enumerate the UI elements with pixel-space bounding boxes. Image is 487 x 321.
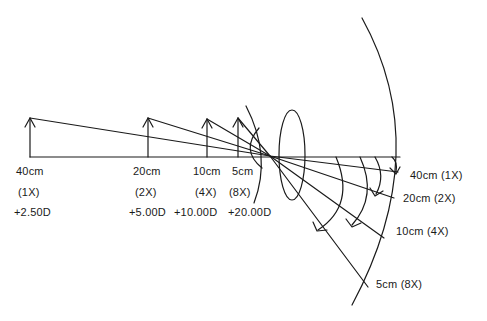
chief-rays — [30, 118, 398, 287]
object-magnification-20cm: (2X) — [135, 186, 157, 198]
retina-arc — [352, 18, 396, 305]
object-power-20cm: +5.00D — [129, 206, 166, 218]
object-distance-10cm: 10cm — [193, 165, 221, 177]
retina-label-20cm: 20cm (2X) — [403, 192, 456, 204]
object-power-10cm: +10.00D — [174, 206, 217, 218]
object-distance-40cm: 40cm — [16, 165, 44, 177]
object-magnification-10cm: (4X) — [195, 186, 217, 198]
angle-arc-20cm — [370, 157, 383, 196]
angle-arc-10cm — [346, 157, 367, 227]
object-power-5cm: +20.00D — [228, 206, 271, 218]
object-distance-20cm: 20cm — [133, 165, 161, 177]
object-power-40cm: +2.50D — [14, 206, 51, 218]
magnification-diagram — [0, 0, 487, 321]
object-magnification-40cm: (1X) — [18, 186, 40, 198]
lens — [279, 110, 305, 200]
object-distance-5cm: 5cm — [232, 165, 253, 177]
object-arrow-40cm — [25, 118, 35, 157]
retina-label-10cm: 10cm (4X) — [396, 225, 449, 237]
retina-label-5cm: 5cm (8X) — [376, 278, 422, 290]
object-magnification-5cm: (8X) — [229, 186, 251, 198]
retina-label-40cm: 40cm (1X) — [410, 169, 463, 181]
